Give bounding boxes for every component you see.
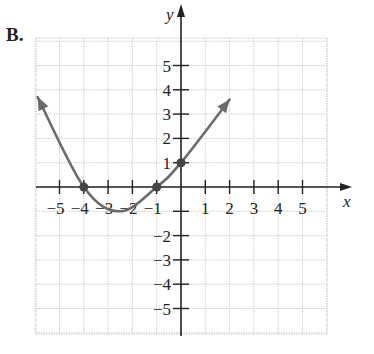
y-tick-label: 2 [163,129,172,148]
y-tick-label: −4 [153,275,172,294]
y-axis-arrow-icon [177,4,185,17]
y-tick-label: 5 [163,57,172,76]
right-arrow-icon [217,100,229,114]
y-tick-label: −3 [153,251,171,270]
x-axis-label: x [342,192,351,211]
x-tick-label: 2 [225,199,234,218]
graph: xy−5−4−3−2−11234554321−2−3−4−5 [0,0,374,354]
marked-point [152,183,161,192]
x-tick-label: −4 [71,199,90,218]
y-tick-label: 1 [163,154,172,173]
x-tick-label: −1 [144,199,162,218]
x-axis-arrow-icon [340,183,352,191]
y-tick-label: 3 [163,105,172,124]
marked-point [177,158,186,167]
x-tick-label: −5 [46,199,64,218]
x-tick-label: 1 [201,199,210,218]
y-tick-label: −5 [153,300,171,319]
x-tick-label: 5 [298,199,307,218]
y-tick-label: 4 [163,81,172,100]
x-tick-label: 3 [250,199,259,218]
y-tick-label: −2 [153,227,171,246]
marked-point [79,183,88,192]
y-axis-label: y [164,5,174,24]
x-tick-label: 4 [274,199,283,218]
